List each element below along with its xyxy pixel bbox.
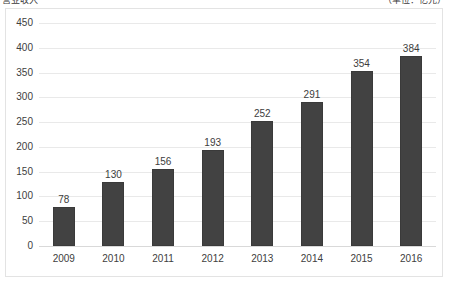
bar-series: 78130156193252291354384 [39,23,436,246]
bar-slot: 78 [39,23,89,246]
bar-slot: 156 [138,23,188,246]
x-axis-tick-label: 2009 [39,253,89,264]
chart-unit-label: （单位：亿元） [383,0,446,6]
bar-value-label: 354 [353,59,370,69]
x-axis-tick-label: 2013 [238,253,288,264]
bar-slot: 384 [386,23,436,246]
bar-slot: 354 [337,23,387,246]
chart-title-label: 营业收入 [2,0,38,6]
bar[interactable] [102,182,124,246]
y-axis-tick-label: 150 [16,167,33,177]
y-axis-tick-label: 300 [16,92,33,102]
x-axis-tick-label: 2012 [188,253,238,264]
bar[interactable] [301,102,323,246]
bar-value-label: 156 [155,157,172,167]
bar-value-label: 384 [403,44,420,54]
bar[interactable] [251,121,273,246]
x-axis-tick-label: 2010 [89,253,139,264]
bar-slot: 193 [188,23,238,246]
bar-value-label: 130 [105,170,122,180]
bar-slot: 291 [287,23,337,246]
bar[interactable] [351,71,373,246]
bar[interactable] [202,150,224,246]
y-axis-tick-label: 350 [16,68,33,78]
bar-slot: 130 [89,23,139,246]
bar[interactable] [152,169,174,246]
bar-value-label: 193 [204,138,221,148]
x-axis-tick-label: 2015 [337,253,387,264]
chart-frame: 450400350300250200150100500 781301561932… [5,8,443,277]
y-axis-tick-label: 400 [16,43,33,53]
y-axis-tick-label: 200 [16,142,33,152]
chart-header-strip: 营业收入 （单位：亿元） [0,0,450,7]
y-axis-tick-label: 450 [16,18,33,28]
y-axis-tick-label: 100 [16,191,33,201]
bar[interactable] [400,56,422,246]
x-axis-tick-label: 2014 [287,253,337,264]
x-axis-labels: 20092010201120122013201420152016 [39,253,436,264]
y-axis-tick-label: 0 [27,241,33,251]
y-axis-tick-label: 250 [16,117,33,127]
bar-value-label: 291 [304,90,321,100]
bar-value-label: 252 [254,109,271,119]
bar-slot: 252 [238,23,288,246]
x-axis-tick-label: 2011 [138,253,188,264]
y-axis-tick-label: 50 [22,216,33,226]
axis-baseline: 0 [39,246,436,247]
plot-area: 450400350300250200150100500 781301561932… [39,23,436,246]
bar[interactable] [53,207,75,246]
x-axis-tick-label: 2016 [386,253,436,264]
bar-value-label: 78 [58,195,69,205]
